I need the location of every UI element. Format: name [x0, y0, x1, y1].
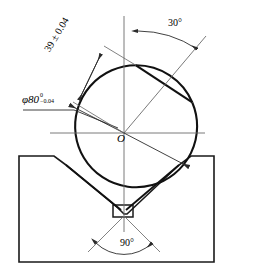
technical-drawing-canvas [0, 0, 253, 277]
diameter-dimension-label: φ800−0.04 [22, 92, 54, 105]
linear-dimension-39 [73, 46, 136, 133]
center-point-label: O [117, 133, 125, 144]
diameter-dimension-80 [23, 105, 189, 167]
vee-flank-contact-lines [66, 165, 179, 210]
diameter-tolerance: 0−0.04 [40, 92, 54, 105]
angle-dimension-label: 30° [168, 18, 182, 28]
diameter-value: φ80 [22, 93, 39, 105]
diameter-lower-tolerance: −0.04 [40, 98, 54, 104]
vee-angle-dimension-label: 90° [120, 238, 134, 248]
workpiece-shaft-profile [75, 65, 197, 187]
angle-dimension-30 [124, 31, 206, 133]
center-lines [50, 16, 205, 232]
diameter-upper-tolerance: 0 [40, 92, 43, 98]
vee-block-body [19, 156, 214, 262]
